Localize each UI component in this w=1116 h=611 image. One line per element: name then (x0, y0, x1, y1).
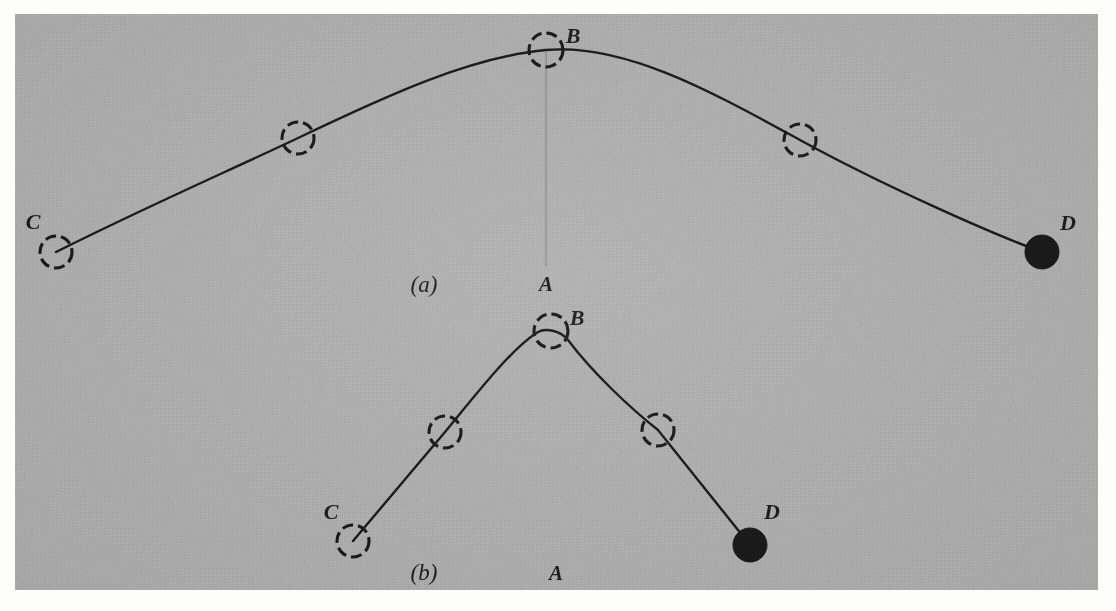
figure-root: C B D A (a) C B D A (b) (0, 0, 1116, 611)
ball-d-a (1025, 235, 1059, 269)
label-point-c-b: C (324, 499, 339, 524)
label-point-d-a: D (1059, 210, 1076, 235)
label-point-d-b: D (763, 499, 780, 524)
label-point-b-b: B (569, 305, 585, 330)
ball-d-b (733, 528, 767, 562)
trajectory-diagram: C B D A (a) C B D A (b) (0, 0, 1116, 611)
caption-b: (b) (411, 560, 438, 585)
label-point-b-a: B (565, 23, 581, 48)
plate-grain-overlay (15, 14, 1098, 590)
label-point-a-b: A (547, 561, 563, 585)
label-point-a-a: A (537, 272, 553, 296)
caption-a: (a) (411, 272, 438, 297)
label-point-c-a: C (26, 209, 41, 234)
